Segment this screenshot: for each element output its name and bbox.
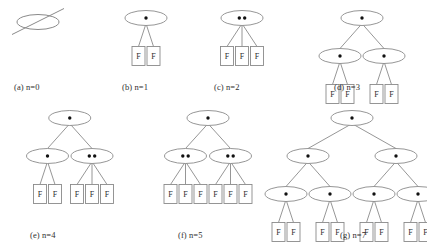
leaf-node-label: F	[151, 52, 156, 61]
tree-group	[12, 9, 64, 35]
tree-edge	[186, 162, 201, 185]
leaf-node-label: F	[240, 52, 245, 61]
tree-edge	[286, 200, 294, 223]
node-key-dot	[232, 154, 235, 157]
tree-group: FFFFF	[27, 111, 114, 204]
node-key-dot	[88, 154, 91, 157]
leaf-node-label: F	[320, 228, 325, 237]
node-key-dot	[144, 16, 147, 19]
node-key-dot	[238, 16, 241, 19]
leaf-node-label: F	[198, 190, 203, 199]
node-key-dot	[382, 54, 385, 57]
panel-caption-e: (e) n=4	[30, 230, 56, 240]
leaf-node-label: F	[291, 228, 296, 237]
tree-edge	[139, 24, 147, 47]
panel-caption-a: (a) n=0	[14, 82, 40, 92]
leaf-node-label: F	[183, 190, 188, 199]
leaf-node-label: F	[374, 90, 379, 99]
tree-drawing: FFFFFFFF	[278, 104, 426, 222]
tree-group: FFFFFFFF	[265, 111, 427, 242]
figure-canvas: (a) n=0FF(b) n=1FFF(c) n=2FFFF(d) n=3FFF…	[0, 0, 427, 252]
node-key-dot	[181, 154, 184, 157]
node-key-dot	[284, 192, 287, 195]
tree-edge	[362, 24, 384, 49]
tree-edge	[208, 124, 231, 149]
leaf-node-label: F	[213, 190, 218, 199]
tree-edge	[308, 124, 352, 149]
node-key-dot	[306, 154, 309, 157]
tree-edge	[323, 200, 331, 223]
panel-caption-c: (c) n=2	[214, 82, 240, 92]
node-key-dot	[416, 192, 419, 195]
node-key-dot	[46, 154, 49, 157]
tree-edge	[384, 62, 392, 85]
tree-edge	[231, 162, 246, 185]
tree-edge	[216, 162, 231, 185]
tree-edge	[40, 162, 48, 185]
figure-bottom-caption	[0, 245, 427, 252]
panel-caption-g: (g) n=7	[340, 230, 366, 240]
node-key-dot	[338, 54, 341, 57]
internal-node-ellipse	[71, 149, 113, 164]
tree-edge	[340, 24, 362, 49]
leaf-node-label: F	[225, 52, 230, 61]
tree-drawing: FFF	[196, 4, 288, 96]
tree-edge	[171, 162, 186, 185]
tree-figure-panel-f: FFFFFF	[146, 104, 270, 222]
tree-edge	[411, 200, 419, 223]
tree-edge	[396, 162, 418, 187]
tree-edge	[330, 200, 338, 223]
node-key-dot	[68, 116, 71, 119]
panel-caption-f: (f) n=5	[178, 230, 203, 240]
tree-edge	[374, 200, 382, 223]
tree-edge	[286, 162, 308, 187]
leaf-node-label: F	[168, 190, 173, 199]
tree-edge	[242, 24, 257, 47]
tree-edge	[70, 124, 92, 149]
tree-edge	[48, 162, 56, 185]
tree-edge	[374, 162, 396, 187]
leaf-node-label: F	[38, 190, 43, 199]
node-key-dot	[372, 192, 375, 195]
leaf-node-label: F	[53, 190, 58, 199]
leaf-node-label: F	[243, 190, 248, 199]
leaf-node-label: F	[105, 190, 110, 199]
tree-edge	[352, 124, 396, 149]
tree-edge	[227, 24, 242, 47]
tree-edge	[367, 200, 375, 223]
tree-edge	[186, 124, 209, 149]
tree-drawing: FFFFFF	[146, 104, 270, 222]
node-key-dot	[350, 116, 353, 119]
internal-node-ellipse	[397, 187, 427, 202]
tree-edge	[146, 24, 154, 47]
leaf-node-label: F	[255, 52, 260, 61]
tree-edge	[279, 200, 287, 223]
node-key-dot	[187, 154, 190, 157]
leaf-node-label: F	[90, 190, 95, 199]
tree-group: FFFF	[319, 11, 405, 104]
tree-drawing: FFFFF	[8, 104, 132, 222]
internal-node-ellipse	[210, 149, 252, 164]
tree-figure-panel-e: FFFFF	[8, 104, 132, 222]
leaf-node-label: F	[389, 90, 394, 99]
tree-edge	[308, 162, 330, 187]
node-key-dot	[360, 16, 363, 19]
tree-figure-panel-d: FFFF	[300, 4, 424, 96]
tree-figure-panel-g: FFFFFFFF	[278, 104, 426, 222]
leaf-node-label: F	[408, 228, 413, 237]
internal-node-ellipse	[221, 11, 263, 26]
internal-node-ellipse	[165, 149, 207, 164]
leaf-node-label: F	[136, 52, 141, 61]
node-key-dot	[328, 192, 331, 195]
tree-group: FF	[125, 11, 167, 66]
leaf-node-label: F	[423, 228, 427, 237]
node-key-dot	[93, 154, 96, 157]
tree-edge	[48, 124, 70, 149]
tree-group: FFFFFF	[164, 111, 252, 204]
leaf-node-label: F	[276, 228, 281, 237]
tree-edge	[77, 162, 92, 185]
tree-edge	[418, 200, 426, 223]
tree-figure-panel-c: FFF	[196, 4, 288, 96]
node-key-dot	[394, 154, 397, 157]
panel-caption-d: (d) n=3	[334, 82, 360, 92]
